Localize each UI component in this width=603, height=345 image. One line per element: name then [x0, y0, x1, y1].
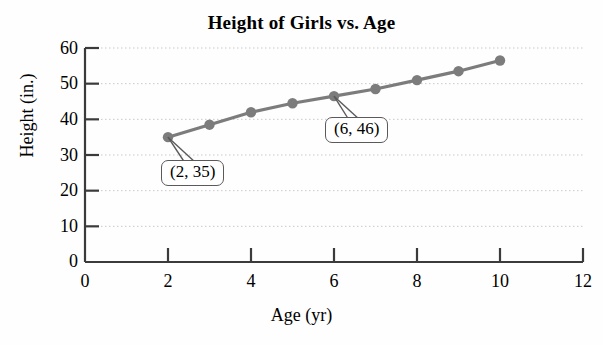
annotation-callout-2: (6, 46) [325, 117, 388, 143]
chart-container: Height of Girls vs. Age Height (in.) Age… [0, 0, 603, 345]
annotation-callout-1: (2, 35) [161, 160, 224, 186]
plot-area [0, 0, 603, 345]
